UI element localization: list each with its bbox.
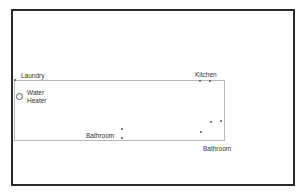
kitchen-label: Kitchen xyxy=(195,71,217,78)
bathroom-fixture-dot xyxy=(200,131,202,133)
laundry-fixture-dot xyxy=(14,79,16,81)
water-heater-label-line2: Heater xyxy=(27,97,47,104)
bathroom-fixture-dot xyxy=(210,121,212,123)
bathroom-fixture-dot xyxy=(220,120,222,122)
bathroom-right-label: Bathroom xyxy=(203,145,231,152)
water-heater-icon xyxy=(16,93,23,100)
bathroom-left-label: Bathroom xyxy=(86,132,114,139)
kitchen-fixture-dot xyxy=(199,80,201,82)
plumbing-run-outline xyxy=(14,80,225,141)
bathroom-fixture-dot xyxy=(121,128,123,130)
floor-plan-canvas: Laundry Water Heater Kitchen Bathroom Ba… xyxy=(0,0,301,195)
bathroom-fixture-dot xyxy=(121,137,123,139)
kitchen-fixture-dot xyxy=(209,80,211,82)
water-heater-label-line1: Water xyxy=(27,89,44,96)
laundry-label: Laundry xyxy=(21,72,45,79)
